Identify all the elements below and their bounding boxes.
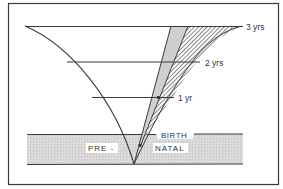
one-year-label: 1 yr: [178, 93, 192, 103]
pre-label: PRE -: [88, 144, 114, 153]
wedge-inner-edge: [140, 26, 188, 147]
prenatal-bottom-line: [27, 164, 243, 165]
birth-label: BIRTH: [161, 131, 187, 140]
two-years-label: 2 yrs: [205, 58, 223, 68]
one-year-marker: [157, 96, 160, 99]
growth-cone-diagram: 3 yrs 2 yrs 1 yr BIRTH PRE - NATAL: [0, 0, 283, 189]
three-years-label: 3 yrs: [246, 22, 264, 32]
birth-marker: [139, 144, 142, 147]
diagram-frame: 3 yrs 2 yrs 1 yr BIRTH PRE - NATAL: [0, 0, 283, 189]
natal-label: NATAL: [155, 144, 185, 153]
